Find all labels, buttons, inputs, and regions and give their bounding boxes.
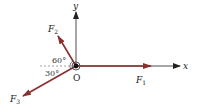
force-f1-label: F1 xyxy=(135,75,146,86)
force-f3-label: F3 xyxy=(9,94,20,105)
force-diagram: y x O 60° 30° F1 F2 F3 xyxy=(0,0,201,107)
angle-label-30: 30° xyxy=(45,69,59,78)
force-f2-label: F2 xyxy=(47,24,58,35)
origin-dot xyxy=(74,64,79,69)
angle-label-60: 60° xyxy=(52,56,66,65)
y-axis-label: y xyxy=(72,1,79,11)
x-axis-label: x xyxy=(183,61,188,71)
origin-label: O xyxy=(73,73,80,83)
